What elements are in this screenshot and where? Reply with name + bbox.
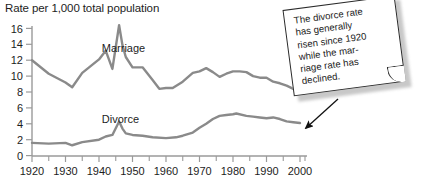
divorce-series-label: Divorce — [102, 113, 139, 125]
y-tick-label: 2 — [17, 134, 23, 146]
x-tick-label: 2000 — [288, 165, 312, 177]
y-tick-label: 10 — [11, 70, 23, 82]
y-tick-label: 16 — [11, 23, 23, 35]
chart-figure: Rate per 1,000 total population 16 14 12… — [0, 0, 430, 182]
y-tick-label: 0 — [17, 150, 23, 162]
x-tick-label: 1920 — [20, 165, 44, 177]
y-tick-label: 12 — [11, 54, 23, 66]
y-tick-label: 14 — [11, 38, 23, 50]
y-axis-ticks — [26, 28, 32, 155]
page-curl-icon — [387, 65, 406, 84]
x-axis-tick-labels: 1920 1930 1940 1950 1960 1970 1980 1990 … — [20, 165, 312, 177]
y-tick-label: 4 — [17, 118, 23, 130]
x-tick-label: 1970 — [187, 165, 211, 177]
y-tick-label: 8 — [17, 86, 23, 98]
y-axis-tick-labels: 16 14 12 10 8 6 4 2 0 — [11, 23, 23, 162]
x-tick-label: 1990 — [254, 165, 278, 177]
annotation-callout-note: The divorce rate has generally risen sin… — [283, 0, 412, 101]
x-tick-label: 1930 — [53, 165, 77, 177]
x-tick-label: 1980 — [221, 165, 245, 177]
marriage-series-label: Marriage — [102, 42, 145, 54]
y-tick-label: 6 — [17, 102, 23, 114]
marriage-line — [32, 25, 300, 89]
divorce-line — [32, 113, 300, 145]
x-tick-label: 1960 — [154, 165, 178, 177]
callout-text: The divorce rate has generally risen sin… — [293, 2, 400, 88]
callout-paper: The divorce rate has generally risen sin… — [283, 0, 406, 96]
x-axis-ticks — [32, 156, 300, 162]
x-tick-label: 1950 — [120, 165, 144, 177]
x-tick-label: 1940 — [87, 165, 111, 177]
